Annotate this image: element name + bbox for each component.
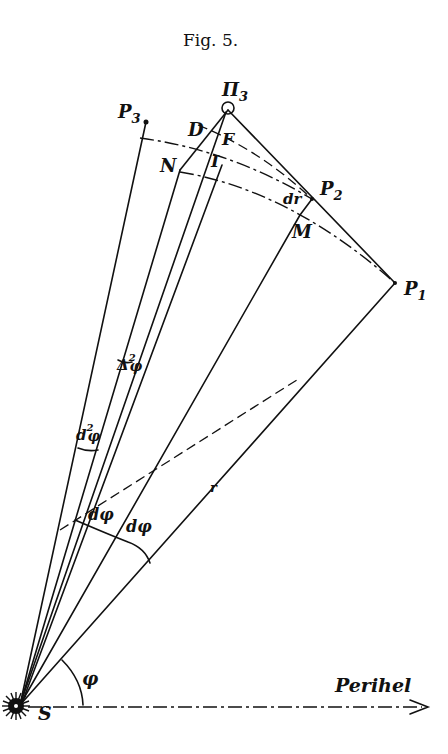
label-phi: φ	[82, 668, 99, 689]
label-d2phi: d2φ	[76, 422, 100, 444]
label-P1: P1	[403, 278, 427, 303]
arc-d2phi	[78, 448, 98, 451]
label-Pi3: Π3	[221, 79, 248, 104]
label-D: D	[187, 119, 204, 140]
point-Pi3	[222, 102, 234, 114]
label-M: M	[291, 221, 313, 242]
label-I: I	[210, 151, 220, 171]
ray-S-P1	[20, 283, 395, 705]
label-P2: P2	[319, 178, 343, 203]
ray-S-Pi3	[20, 112, 226, 705]
line-Pi3-P1	[228, 110, 395, 283]
label-S: S	[38, 702, 52, 724]
label-dphi-1: dφ	[88, 505, 114, 524]
orbit-diagram: Fig. 5. Π3 P3	[0, 0, 448, 754]
label-perihel: Perihel	[334, 674, 411, 696]
point-P3	[144, 120, 149, 125]
label-N: N	[159, 155, 178, 176]
label-delta2phi: Δ2φ	[116, 352, 143, 374]
sun-icon	[2, 692, 30, 720]
ray-S-P3	[20, 122, 146, 705]
label-P3: P3	[117, 101, 141, 126]
point-P1	[393, 281, 397, 285]
line-P2-M	[300, 199, 312, 215]
point-P2	[310, 197, 314, 201]
arc-phi	[62, 660, 83, 705]
ray-S-M	[20, 215, 300, 705]
arc-N-P1	[180, 172, 395, 283]
label-F: F	[221, 129, 236, 149]
label-r: r	[210, 480, 218, 495]
label-dphi-2: dφ	[126, 517, 152, 536]
ray-S-I	[22, 165, 222, 703]
figure-caption: Fig. 5.	[183, 30, 238, 50]
label-dr: dr	[283, 190, 302, 208]
